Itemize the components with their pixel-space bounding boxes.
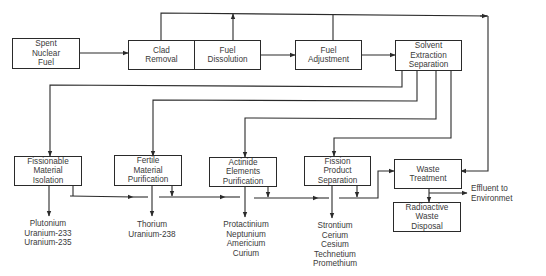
output-item: Thorium bbox=[118, 220, 186, 230]
node-label-line: Dissolution bbox=[207, 55, 247, 65]
node-label-line: Waste bbox=[417, 165, 440, 175]
output-item: Americium bbox=[211, 239, 281, 249]
node-label-line: Isolation bbox=[33, 176, 64, 186]
node-fuel-adjustment: Fuel Adjustment bbox=[295, 40, 362, 70]
node-label-line: Fuel bbox=[321, 46, 337, 56]
node-label-line: Spent bbox=[35, 39, 56, 49]
node-label-line: Material bbox=[133, 166, 162, 176]
node-label-line: Adjustment bbox=[308, 55, 349, 65]
node-radioactive-waste-disposal: Radioactive Waste Disposal bbox=[393, 202, 461, 232]
output-item: Cesium bbox=[300, 240, 370, 250]
output-fission-product: Strontium Cerium Cesium Technetium Prome… bbox=[300, 221, 370, 269]
node-label-line: Elements bbox=[226, 167, 260, 177]
node-fissionable-material-isolation: Fissionable Material Isolation bbox=[14, 156, 82, 186]
output-item: Cerium bbox=[300, 231, 370, 241]
output-item: Uranium-233 bbox=[14, 229, 82, 239]
output-item: Neptunium bbox=[211, 230, 281, 240]
node-fertile-material-purification: Fertile Material Purification bbox=[114, 155, 182, 186]
effluent-line: Environmet bbox=[471, 194, 512, 204]
node-label-line: Radioactive bbox=[406, 203, 449, 213]
output-actinide: Protactinium Neptunium Americium Curium bbox=[211, 220, 281, 258]
output-item: Promethium bbox=[300, 259, 370, 269]
node-label-line: Treatment bbox=[409, 174, 446, 184]
output-item: Uranium-235 bbox=[14, 238, 82, 248]
output-fertile: Thorium Uranium-238 bbox=[118, 220, 186, 239]
output-item: Technetium bbox=[300, 250, 370, 260]
node-label-line: Solvent bbox=[415, 41, 442, 51]
node-label-line: Waste bbox=[416, 212, 439, 222]
node-label-line: Disposal bbox=[411, 222, 442, 232]
node-fuel-dissolution: Fuel Dissolution bbox=[194, 40, 261, 70]
node-label-line: Removal bbox=[145, 55, 177, 65]
node-label-line: Nuclear bbox=[32, 49, 60, 59]
node-label-line: Separation bbox=[409, 60, 449, 70]
output-item: Strontium bbox=[300, 221, 370, 231]
node-label-line: Product bbox=[323, 166, 351, 176]
output-fissionable: Plutonium Uranium-233 Uranium-235 bbox=[14, 219, 82, 248]
output-item: Protactinium bbox=[211, 220, 281, 230]
node-label-line: Extraction bbox=[410, 51, 446, 61]
node-fission-product-separation: Fission Product Separation bbox=[304, 156, 371, 186]
node-label-line: Clad bbox=[153, 46, 170, 56]
output-item: Uranium-238 bbox=[118, 230, 186, 240]
node-label-line: Separation bbox=[318, 176, 358, 186]
node-clad-removal: Clad Removal bbox=[128, 40, 195, 70]
node-label-line: Fuel bbox=[38, 58, 54, 68]
node-label-line: Material bbox=[33, 166, 62, 176]
node-label-line: Fissionable bbox=[27, 157, 68, 167]
node-spent-nuclear-fuel: Spent Nuclear Fuel bbox=[12, 38, 80, 69]
node-label-line: Actinide bbox=[228, 158, 257, 168]
output-item: Plutonium bbox=[14, 219, 82, 229]
node-label-line: Fuel bbox=[220, 46, 236, 56]
node-solvent-extraction-separation: Solvent Extraction Separation bbox=[395, 40, 462, 71]
node-actinide-elements-purification: Actinide Elements Purification bbox=[209, 157, 277, 187]
effluent-label: Effluent to Environmet bbox=[471, 184, 512, 203]
output-item: Curium bbox=[211, 249, 281, 259]
node-label-line: Fertile bbox=[137, 156, 160, 166]
node-label-line: Fission bbox=[325, 157, 351, 167]
effluent-line: Effluent to bbox=[471, 184, 512, 194]
node-waste-treatment: Waste Treatment bbox=[394, 159, 462, 189]
node-label-line: Purification bbox=[128, 175, 169, 185]
node-label-line: Purification bbox=[223, 177, 264, 187]
